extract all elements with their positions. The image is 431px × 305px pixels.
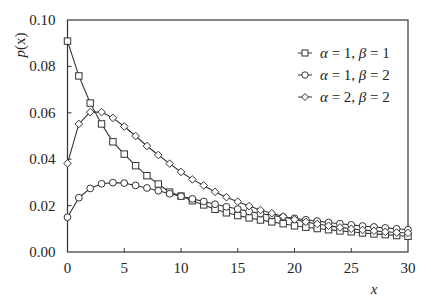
square-marker-icon xyxy=(121,151,127,157)
legend: α = 1, β = 1 α = 1, β = 2 α = 2, β = 2 xyxy=(298,45,390,105)
legend-label: α = 1, β = 1 xyxy=(320,45,390,61)
square-marker-icon xyxy=(144,172,150,178)
circle-marker-icon xyxy=(132,182,139,189)
diamond-marker-icon xyxy=(302,94,309,101)
legend-label: α = 2, β = 2 xyxy=(320,89,390,105)
x-tick-label: 0 xyxy=(64,260,72,276)
circle-marker-icon xyxy=(110,179,117,186)
legend-label: α = 1, β = 2 xyxy=(320,67,390,83)
y-axis-title: p(x) xyxy=(12,33,29,59)
diamond-marker-icon xyxy=(177,168,185,176)
circle-marker-icon xyxy=(212,201,219,208)
x-axis-title: x xyxy=(370,281,378,297)
circle-marker-icon xyxy=(189,195,196,202)
square-marker-icon xyxy=(235,212,241,218)
diamond-marker-icon xyxy=(211,188,219,196)
square-marker-icon xyxy=(302,50,308,56)
y-tick-label: 0.04 xyxy=(29,151,56,167)
x-tick-label: 20 xyxy=(287,260,302,276)
x-tick-label: 10 xyxy=(174,260,189,276)
circle-marker-icon xyxy=(178,193,185,200)
chart: 051015202530 0.000.020.040.060.080.10 x … xyxy=(0,0,431,305)
circle-marker-icon xyxy=(144,185,151,192)
y-axis-title-arg: (x) xyxy=(12,33,29,51)
square-marker-icon xyxy=(98,121,104,127)
diamond-marker-icon xyxy=(189,176,197,184)
circle-marker-icon xyxy=(121,180,128,187)
circle-marker-icon xyxy=(223,203,230,210)
x-tick-label: 5 xyxy=(121,260,129,276)
circle-marker-icon xyxy=(87,185,94,192)
y-tick-label: 0.02 xyxy=(29,198,55,214)
circle-marker-icon xyxy=(166,190,173,197)
circle-marker-icon xyxy=(155,187,162,194)
diamond-marker-icon xyxy=(200,182,208,190)
square-marker-icon xyxy=(87,100,93,106)
y-tick-label: 0.06 xyxy=(29,105,56,121)
x-tick-label: 25 xyxy=(344,260,359,276)
y-tick-label: 0.10 xyxy=(29,12,55,28)
circle-marker-icon xyxy=(234,206,241,213)
circle-marker-icon xyxy=(302,72,308,78)
square-marker-icon xyxy=(76,73,82,79)
square-marker-icon xyxy=(110,139,116,145)
diamond-marker-icon xyxy=(98,108,106,116)
square-marker-icon xyxy=(257,217,263,223)
square-marker-icon xyxy=(269,219,275,225)
diamond-marker-icon xyxy=(64,160,72,168)
y-axis: 0.000.020.040.060.080.10 xyxy=(29,12,71,260)
x-tick-label: 30 xyxy=(401,260,416,276)
y-tick-label: 0.00 xyxy=(29,244,55,260)
square-marker-icon xyxy=(246,215,252,221)
square-marker-icon xyxy=(155,181,161,187)
diamond-marker-icon xyxy=(234,198,242,206)
legend-item: α = 1, β = 2 xyxy=(298,67,390,83)
legend-item: α = 1, β = 1 xyxy=(298,45,390,61)
square-marker-icon xyxy=(280,220,286,226)
square-marker-icon xyxy=(64,38,70,44)
legend-item: α = 2, β = 2 xyxy=(298,89,390,105)
y-tick-label: 0.08 xyxy=(29,58,55,74)
circle-marker-icon xyxy=(64,214,71,221)
circle-marker-icon xyxy=(75,194,82,201)
square-marker-icon xyxy=(132,162,138,168)
diamond-marker-icon xyxy=(223,193,231,201)
x-tick-label: 15 xyxy=(230,260,245,276)
series-circle xyxy=(64,179,411,233)
circle-marker-icon xyxy=(200,198,207,205)
circle-marker-icon xyxy=(98,180,105,187)
